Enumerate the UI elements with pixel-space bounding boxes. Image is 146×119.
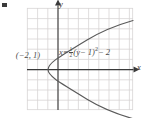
figure-screenshot: (−2, 1) x=12(y− 1)2− 2 y x bbox=[0, 0, 146, 118]
parabola-path bbox=[48, 21, 133, 119]
fraction-denominator: 2 bbox=[69, 53, 73, 58]
equation-fraction: 12 bbox=[69, 47, 73, 58]
equation-equals: = bbox=[63, 47, 69, 57]
equation-tail: − 2 bbox=[98, 47, 110, 57]
vertex-point-label: (−2, 1) bbox=[0, 50, 40, 60]
plot-area bbox=[27, 8, 133, 110]
x-axis-label: x bbox=[137, 63, 141, 72]
parabola-curve bbox=[27, 8, 133, 110]
corner-crop-mark bbox=[2, 3, 7, 7]
equation-label: x=12(y− 1)2− 2 bbox=[59, 47, 110, 59]
equation-minus-one: − 1 bbox=[80, 47, 92, 57]
y-axis-label: y bbox=[59, 0, 63, 9]
